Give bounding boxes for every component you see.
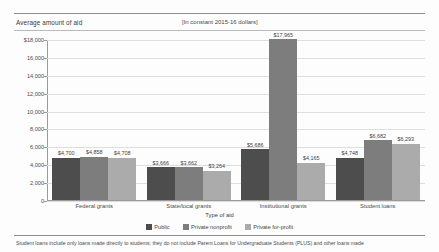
bar[interactable]: $17,965 bbox=[269, 39, 297, 200]
chart-legend: PublicPrivate nonprofitPrivate for-profi… bbox=[0, 224, 439, 230]
y-tick-label: 12,000 bbox=[27, 91, 44, 97]
bar[interactable]: $3,662 bbox=[175, 167, 203, 200]
top-rule bbox=[14, 13, 425, 14]
legend-label: Private for-profit bbox=[253, 224, 293, 230]
bar-value-label: $3,264 bbox=[209, 163, 226, 169]
bar-value-label: $4,700 bbox=[58, 150, 75, 156]
x-axis-category-label: Federal grants bbox=[47, 203, 142, 209]
bar[interactable]: $6,682 bbox=[364, 140, 392, 200]
bar-value-label: $4,165 bbox=[303, 155, 320, 161]
chart-page: Average amount of aid [In constant 2015-… bbox=[0, 0, 439, 252]
gridline bbox=[47, 201, 425, 202]
chart-title: Average amount of aid bbox=[16, 19, 82, 26]
bar[interactable]: $6,293 bbox=[392, 144, 420, 200]
bar-group: $3,666$3,662$3,264 bbox=[142, 40, 237, 200]
bar-value-label: $4,708 bbox=[114, 150, 131, 156]
legend-item[interactable]: Private nonprofit bbox=[183, 224, 232, 230]
legend-swatch-icon bbox=[183, 224, 189, 230]
bar-slot: $3,666 bbox=[147, 40, 175, 200]
bar-value-label: $4,748 bbox=[342, 150, 359, 156]
bar-slot: $4,700 bbox=[52, 40, 80, 200]
bar-slot: $5,686 bbox=[241, 40, 269, 200]
bar-slot: $3,264 bbox=[203, 40, 231, 200]
bar[interactable]: $3,666 bbox=[147, 167, 175, 200]
chart-subtitle: [In constant 2015-16 dollars] bbox=[182, 19, 258, 25]
bar-slot: $17,965 bbox=[269, 40, 297, 200]
bar[interactable]: $4,708 bbox=[108, 158, 136, 200]
bar-slot: $4,858 bbox=[80, 40, 108, 200]
bar-slot: $3,662 bbox=[175, 40, 203, 200]
y-tick-label: 8,000 bbox=[30, 126, 44, 132]
y-tick-label: 0 bbox=[41, 198, 44, 204]
legend-swatch-icon bbox=[146, 224, 152, 230]
x-axis-category-label: Institutional grants bbox=[236, 203, 331, 209]
bar-slot: $4,708 bbox=[108, 40, 136, 200]
bar-group: $4,748$6,682$6,293 bbox=[331, 40, 426, 200]
bar[interactable]: $4,165 bbox=[297, 163, 325, 200]
bar[interactable]: $3,264 bbox=[203, 171, 231, 200]
chart-footnote: Student loans include only loans made di… bbox=[16, 240, 424, 246]
y-tick-label: 2,000 bbox=[30, 180, 44, 186]
bar-value-label: $3,666 bbox=[153, 160, 170, 166]
legend-label: Private nonprofit bbox=[191, 224, 232, 230]
x-axis-category-label: Student loans bbox=[331, 203, 426, 209]
bar[interactable]: $4,748 bbox=[336, 158, 364, 200]
bar-value-label: $6,293 bbox=[398, 136, 415, 142]
bar-slot: $6,293 bbox=[392, 40, 420, 200]
bar-groups: $4,700$4,858$4,708$3,666$3,662$3,264$5,6… bbox=[47, 40, 425, 200]
bottom-rule bbox=[14, 235, 425, 236]
y-tick-label: 4,000 bbox=[30, 162, 44, 168]
legend-label: Public bbox=[154, 224, 169, 230]
bar-value-label: $5,686 bbox=[247, 142, 264, 148]
bar[interactable]: $4,858 bbox=[80, 157, 108, 200]
bar-slot: $4,748 bbox=[336, 40, 364, 200]
y-tick-label: 14,000 bbox=[27, 73, 44, 79]
y-tick-label: 10,000 bbox=[27, 109, 44, 115]
bar-value-label: $17,965 bbox=[274, 32, 294, 38]
bar-slot: $4,165 bbox=[297, 40, 325, 200]
bar[interactable]: $4,700 bbox=[52, 158, 80, 200]
x-axis-category-labels: Federal grantsState/local grantsInstitut… bbox=[47, 203, 425, 209]
plot-area: $18,00016,00014,00012,00010,0008,0006,00… bbox=[47, 40, 425, 201]
bar-value-label: $3,662 bbox=[181, 160, 198, 166]
header-rule bbox=[14, 30, 425, 31]
x-axis-category-label: State/local grants bbox=[142, 203, 237, 209]
bar-value-label: $4,858 bbox=[86, 149, 103, 155]
y-tick-label: 16,000 bbox=[27, 55, 44, 61]
bar-value-label: $6,682 bbox=[370, 133, 387, 139]
y-tick-label: 6,000 bbox=[30, 144, 44, 150]
bar[interactable]: $5,686 bbox=[241, 149, 269, 200]
bar-group: $5,686$17,965$4,165 bbox=[236, 40, 331, 200]
x-axis-title: Type of aid bbox=[0, 212, 439, 218]
legend-item[interactable]: Public bbox=[146, 224, 170, 230]
y-tick-label: $18,000 bbox=[24, 37, 44, 43]
legend-item[interactable]: Private for-profit bbox=[245, 224, 293, 230]
y-tick-mark bbox=[44, 201, 47, 202]
bar-slot: $6,682 bbox=[364, 40, 392, 200]
legend-swatch-icon bbox=[245, 224, 251, 230]
bar-group: $4,700$4,858$4,708 bbox=[47, 40, 142, 200]
